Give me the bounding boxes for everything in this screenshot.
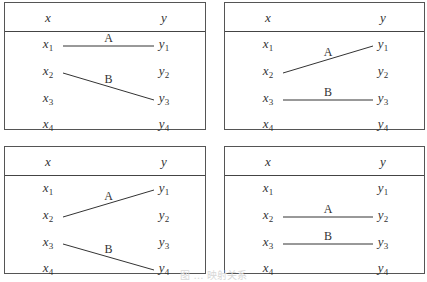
mapping-panel-top-right: xyx1x2x3x4y1y2y3y4AB: [224, 2, 425, 130]
mapping-lines: [5, 3, 207, 131]
mapping-panel-bottom-left: xyx1x2x3x4y1y2y3y4AB: [4, 146, 206, 274]
figure-caption: 图 … 映射关系: [0, 267, 427, 282]
mapping-lines: [225, 3, 426, 131]
mapping-panel-top-left: xyx1x2x3x4y1y2y3y4AB: [4, 2, 206, 130]
mapping-arrow-A: [63, 190, 154, 217]
mapping-lines: [5, 147, 207, 275]
mapping-arrow-B: [63, 73, 154, 100]
mapping-panel-bottom-right: xyx1x2x3x4y1y2y3y4AB: [224, 146, 425, 274]
mapping-arrow-A: [283, 46, 373, 73]
mapping-lines: [225, 147, 426, 275]
